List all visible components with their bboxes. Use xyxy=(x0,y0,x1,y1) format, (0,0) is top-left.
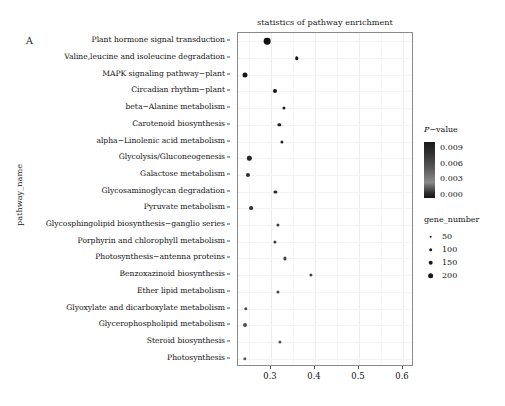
y-axis-tick-mark xyxy=(227,290,230,291)
gridline-horizontal xyxy=(238,158,412,159)
gridline-horizontal xyxy=(238,258,412,259)
y-axis-tick-label: Glyoxylate and dicarboxylate metabolism xyxy=(66,304,225,312)
gridline-horizontal xyxy=(238,58,412,59)
chart-title: statistics of pathway enrichment xyxy=(237,18,413,26)
scatter-point[interactable] xyxy=(283,257,286,260)
gridline-horizontal xyxy=(238,142,412,143)
scatter-point[interactable] xyxy=(280,140,283,143)
y-axis-title-text: pathway_name xyxy=(14,161,24,229)
y-axis-tick-label: MAPK signaling pathway−plant xyxy=(102,70,225,78)
y-axis-tick-label: Plant hormone signal transduction xyxy=(92,37,225,45)
legend-gene-number-label: 50 xyxy=(442,233,452,241)
y-axis-tick-mark xyxy=(227,157,230,158)
legend-pvalue-title-rest: −value xyxy=(429,125,457,134)
legend-gene-number-dot-wrap xyxy=(424,269,437,282)
legend-gene-number-dot-wrap xyxy=(424,230,437,243)
legend-pvalue-gradient-bar xyxy=(424,142,435,198)
scatter-point[interactable] xyxy=(243,323,247,327)
x-axis-tick-label: 0.4 xyxy=(307,372,320,380)
y-axis-tick-mark xyxy=(227,90,230,91)
legend-gene-number-dot xyxy=(429,235,432,238)
gridline-horizontal xyxy=(238,342,412,343)
scatter-plot-panel[interactable] xyxy=(237,32,413,366)
y-axis-tick-label: Valine,leucine and isoleucine degradatio… xyxy=(64,53,225,61)
gridline-horizontal xyxy=(238,325,412,326)
y-axis-tick-label: Carotenoid biosynthesis xyxy=(132,120,225,128)
gridline-horizontal xyxy=(238,309,412,310)
y-axis-tick-mark xyxy=(227,274,230,275)
scatter-point[interactable] xyxy=(295,56,299,60)
x-axis-tick-label: 0.3 xyxy=(263,372,276,380)
legend-gene-number-label: 100 xyxy=(442,246,457,254)
legend-gene-number-dot xyxy=(428,260,433,265)
x-axis-tick-marks xyxy=(237,366,413,370)
y-axis-tick-mark xyxy=(227,140,230,141)
y-axis-tick-mark xyxy=(227,57,230,58)
gridline-horizontal xyxy=(238,91,412,92)
gridline-horizontal xyxy=(238,75,412,76)
y-axis-tick-mark xyxy=(227,190,230,191)
scatter-point[interactable] xyxy=(243,357,246,360)
scatter-point[interactable] xyxy=(283,107,286,110)
y-axis-tick-label: Benzoxazinoid biosynthesis xyxy=(119,270,225,278)
legend-gene-number-row: 50 xyxy=(424,230,498,243)
y-axis-tick-label: Circadian rhythm−plant xyxy=(131,87,225,95)
y-axis-tick-label: Photosynthesis xyxy=(167,354,225,362)
legend-gene-number-row: 100 xyxy=(424,243,498,256)
gridline-horizontal xyxy=(238,292,412,293)
gridline-vertical-minor xyxy=(337,33,338,365)
y-axis-title: pathway_name xyxy=(13,140,25,250)
scatter-point[interactable] xyxy=(278,123,281,126)
legend-pvalue-tick-label: 0.000 xyxy=(440,191,463,199)
scatter-point[interactable] xyxy=(247,156,251,160)
y-axis-tick-label: beta−Alanine metabolism xyxy=(125,103,225,111)
scatter-point[interactable] xyxy=(273,240,276,243)
gridline-vertical-major xyxy=(359,33,360,365)
gridline-horizontal xyxy=(238,108,412,109)
scatter-point[interactable] xyxy=(264,38,271,45)
legend-gene-number-row: 200 xyxy=(424,269,498,282)
legend-gene-number-dot-wrap xyxy=(424,256,437,269)
y-axis-tick-mark xyxy=(227,73,230,74)
y-axis-tick-mark xyxy=(227,324,230,325)
legend-pvalue-tick-label: 0.006 xyxy=(440,160,463,168)
y-axis-tick-label: Porphyrin and chlorophyll metabolism xyxy=(78,237,225,245)
y-axis-tick-mark xyxy=(227,307,230,308)
gridline-vertical-minor xyxy=(249,33,250,365)
y-axis-tick-label: Pyruvate metabolism xyxy=(144,204,225,212)
scatter-point[interactable] xyxy=(244,307,247,310)
scatter-point[interactable] xyxy=(276,223,279,226)
scatter-point[interactable] xyxy=(276,290,279,293)
scatter-point[interactable] xyxy=(278,340,281,343)
y-axis-tick-mark xyxy=(227,340,230,341)
y-axis-tick-mark xyxy=(227,240,230,241)
y-axis-tick-label: Glycosphingolipid biosynthesis−ganglio s… xyxy=(46,220,225,228)
scatter-point[interactable] xyxy=(273,89,277,93)
x-axis-tick-label: 0.5 xyxy=(351,372,364,380)
y-axis-tick-label: Galactose metabolism xyxy=(140,170,225,178)
x-axis-tick-label: 0.6 xyxy=(395,372,408,380)
legend-gene-number-dot-wrap xyxy=(424,243,437,256)
legend-gene-number-title: gene_number xyxy=(424,216,498,224)
y-axis-tick-label: alpha−Linolenic acid metabolism xyxy=(96,137,225,145)
y-axis-tick-mark xyxy=(227,40,230,41)
gridline-vertical-major xyxy=(315,33,316,365)
y-axis-tick-mark xyxy=(227,173,230,174)
gridline-horizontal xyxy=(238,225,412,226)
scatter-point[interactable] xyxy=(249,206,253,210)
figure-panel-a: A statistics of pathway enrichment pathw… xyxy=(0,0,505,406)
legend-gene-number-label: 150 xyxy=(442,259,457,267)
legend-pvalue-tick-label: 0.009 xyxy=(440,144,463,152)
y-axis-tick-label: Glycerophospholipid metabolism xyxy=(99,320,225,328)
legend-gene-number-dot xyxy=(429,248,433,252)
legend-gene-number-dot xyxy=(428,273,434,279)
scatter-point[interactable] xyxy=(243,72,248,77)
gridline-horizontal xyxy=(238,208,412,209)
x-axis-tick-mark xyxy=(402,366,403,369)
legend-pvalue-body: 0.0090.0060.0030.000 xyxy=(424,140,498,200)
gridline-horizontal xyxy=(238,275,412,276)
scatter-point[interactable] xyxy=(274,190,277,193)
scatter-point[interactable] xyxy=(309,274,312,277)
y-axis-tick-mark xyxy=(227,107,230,108)
gridline-vertical-minor xyxy=(293,33,294,365)
